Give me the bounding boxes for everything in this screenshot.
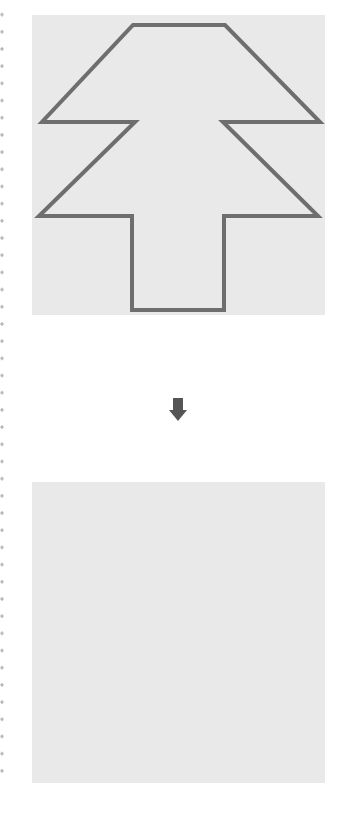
down-arrow-icon bbox=[168, 396, 188, 422]
tree-shape-outline bbox=[32, 15, 325, 315]
dotted-margin bbox=[0, 6, 4, 786]
source-shape-panel bbox=[32, 15, 325, 315]
answer-panel-empty bbox=[32, 482, 325, 783]
